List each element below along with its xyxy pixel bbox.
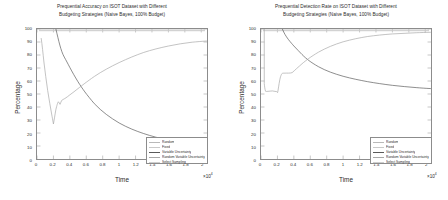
legend-swatch-icon <box>149 157 160 158</box>
y-axis-ticks <box>37 29 207 146</box>
x-tick-label: 0.6 <box>307 162 313 167</box>
legend-swatch-icon <box>373 152 384 153</box>
x-tick-label: 1 <box>342 162 344 167</box>
x-axis-label: Time <box>260 176 432 183</box>
legend-item[interactable]: Select Sampling <box>149 160 205 165</box>
title-line-1: Prequential Detection Rate on ISOT Datas… <box>236 3 436 11</box>
y-tick-label: 10 <box>10 144 32 149</box>
panel-detection-rate: Prequential Detection Rate on ISOT Datas… <box>224 0 448 200</box>
legend-label: Select Sampling <box>162 160 186 165</box>
x-tick-label: 1.2 <box>357 162 363 167</box>
panel-title: Prequential Detection Rate on ISOT Datas… <box>236 3 436 18</box>
x-tick-label: 0.8 <box>323 162 329 167</box>
legend-swatch-icon <box>149 142 160 143</box>
y-tick-label: 90 <box>234 39 256 44</box>
legend-swatch-icon <box>373 157 384 158</box>
y-tick-label: 80 <box>234 52 256 57</box>
legend-swatch-icon <box>373 142 384 143</box>
x-tick-label: 0.6 <box>83 162 89 167</box>
panel-accuracy: Prequential Accuracy on ISOT Dataset wit… <box>0 0 224 200</box>
x-tick-label: 0 <box>35 162 37 167</box>
x-axis-exponent: ×104 <box>427 172 437 179</box>
title-line-1: Prequential Accuracy on ISOT Dataset wit… <box>12 3 212 11</box>
exponent-prefix: ×10 <box>203 174 211 179</box>
legend-swatch-icon <box>149 162 160 163</box>
x-tick-label: 0 <box>259 162 261 167</box>
x-tick-label: 0.8 <box>99 162 105 167</box>
exponent-power: 4 <box>435 172 437 176</box>
legend-box: Random Fixed Variable Uncertainty Random… <box>370 137 432 164</box>
title-line-2: Budgeting Strategies (Naive Bayes, 100% … <box>12 11 212 19</box>
x-tick-label: 0.4 <box>290 162 296 167</box>
y-tick-label: 0 <box>234 158 256 163</box>
x-axis-label: Time <box>36 176 208 183</box>
x-tick-label: 0.4 <box>66 162 72 167</box>
legend-box: Random Fixed Variable Uncertainty Random… <box>146 137 208 164</box>
y-axis-label: Percentage <box>238 61 245 135</box>
y-tick-label: 100 <box>234 26 256 31</box>
legend-label: Select Sampling <box>386 160 410 165</box>
x-tick-label: 0.2 <box>50 162 56 167</box>
y-tick-label: 80 <box>10 52 32 57</box>
legend-item[interactable]: Select Sampling <box>373 160 429 165</box>
y-tick-label: 0 <box>10 158 32 163</box>
legend-swatch-icon <box>149 147 160 148</box>
y-tick-label: 90 <box>10 39 32 44</box>
x-axis-exponent: ×104 <box>203 172 213 179</box>
exponent-power: 4 <box>211 172 213 176</box>
legend-swatch-icon <box>373 147 384 148</box>
legend-swatch-icon <box>373 162 384 163</box>
y-tick-label: 100 <box>10 26 32 31</box>
y-tick-label: 10 <box>234 144 256 149</box>
y-axis-ticks <box>261 29 431 146</box>
title-line-2: Budgeting Strategies (Naive Bayes, 100% … <box>236 11 436 19</box>
legend-swatch-icon <box>149 152 160 153</box>
y-axis-label: Percentage <box>14 61 21 135</box>
x-tick-label: 1 <box>118 162 120 167</box>
series-line-variable-uncertainty <box>282 29 431 89</box>
x-tick-label: 1.2 <box>133 162 139 167</box>
figure-container: Prequential Accuracy on ISOT Dataset wit… <box>0 0 448 200</box>
series-line-random-variable-uncertainty <box>41 38 207 124</box>
x-tick-label: 0.2 <box>274 162 280 167</box>
panel-title: Prequential Accuracy on ISOT Dataset wit… <box>12 3 212 18</box>
series-line-random-variable-uncertainty <box>264 29 431 93</box>
exponent-prefix: ×10 <box>427 174 435 179</box>
